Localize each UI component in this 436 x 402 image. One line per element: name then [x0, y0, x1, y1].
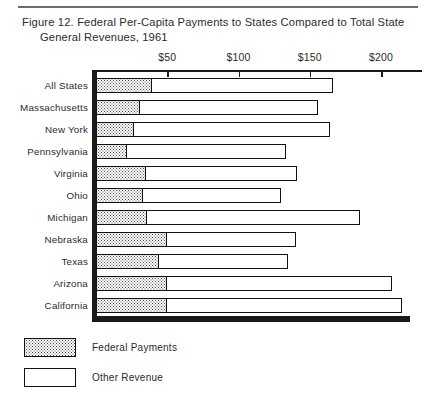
bar-row — [96, 166, 297, 181]
bar-row — [96, 100, 318, 115]
x-axis-tick — [381, 70, 383, 77]
category-label-row: Nebraska — [4, 232, 88, 247]
bar-segment-federal-payments — [96, 254, 159, 269]
category-label: New York — [10, 122, 88, 137]
category-label: Virginia — [10, 166, 88, 181]
category-label: Arizona — [10, 276, 88, 291]
bar-segment-federal-payments — [96, 276, 167, 291]
category-label: Massachusetts — [10, 100, 88, 115]
category-label-row: California — [4, 298, 88, 313]
category-label: All States — [10, 78, 88, 93]
x-axis-tick — [310, 70, 312, 77]
x-axis-tick-label: $200 — [369, 51, 393, 63]
bar-row — [96, 210, 360, 225]
bar-segment-federal-payments — [96, 188, 143, 203]
category-label-row: Texas — [4, 254, 88, 269]
bar-segment-federal-payments — [96, 144, 127, 159]
bar-segment-federal-payments — [96, 210, 147, 225]
bar-segment-federal-payments — [96, 166, 146, 181]
bar-row — [96, 188, 281, 203]
category-label-row: Arizona — [4, 276, 88, 291]
category-label-row: New York — [4, 122, 88, 137]
legend-label: Federal Payments — [92, 338, 177, 357]
bar-row — [96, 122, 330, 137]
bar-row — [96, 144, 286, 159]
category-label-row: Massachusetts — [4, 100, 88, 115]
legend-swatch-other-revenue — [24, 368, 76, 387]
bar-row — [96, 254, 288, 269]
bar-segment-federal-payments — [96, 122, 134, 137]
category-label-row: Pennsylvania — [4, 144, 88, 159]
figure-container: Figure 12. Federal Per-Capita Payments t… — [0, 0, 436, 402]
category-label-row: Virginia — [4, 166, 88, 181]
bar-segment-federal-payments — [96, 298, 167, 313]
bar-segment-federal-payments — [96, 232, 167, 247]
legend-swatch-federal-payments — [24, 338, 76, 357]
category-label: Pennsylvania — [10, 144, 88, 159]
legend-label: Other Revenue — [92, 368, 163, 387]
category-label: Ohio — [10, 188, 88, 203]
bar-segment-federal-payments — [96, 100, 140, 115]
x-axis-tick-label: $50 — [158, 51, 176, 63]
category-label: California — [10, 298, 88, 313]
bar-row — [96, 232, 296, 247]
category-label-row: Ohio — [4, 188, 88, 203]
bar-segment-federal-payments — [96, 78, 152, 93]
x-axis-line — [96, 70, 422, 72]
x-axis-tick — [167, 70, 169, 77]
category-label-row: Michigan — [4, 210, 88, 225]
category-label: Nebraska — [10, 232, 88, 247]
category-label-row: All States — [4, 78, 88, 93]
x-axis-tick-label: $150 — [298, 51, 322, 63]
bar-row — [96, 298, 402, 313]
x-axis-tick — [239, 70, 241, 77]
bar-row — [96, 276, 392, 291]
category-label: Michigan — [10, 210, 88, 225]
x-axis-tick-label: $100 — [226, 51, 250, 63]
bar-row — [96, 78, 333, 93]
category-label: Texas — [10, 254, 88, 269]
chart-baseline — [92, 316, 410, 322]
